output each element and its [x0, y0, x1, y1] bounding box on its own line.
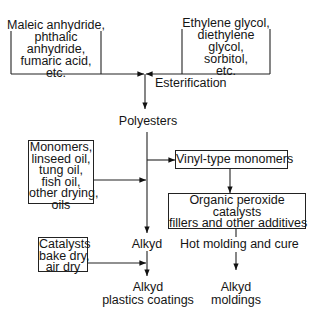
- acids-line: etc.: [6, 67, 106, 79]
- alkyd-label: Alkyd: [128, 238, 166, 250]
- hot-molding-label: Hot molding and cure: [180, 238, 294, 250]
- oils-line: oils: [29, 200, 93, 212]
- peroxide-box: Organic peroxide catalysts fillers and o…: [168, 193, 306, 229]
- glycols-node: Ethylene glycol, diethylene glycol, sorb…: [179, 17, 273, 77]
- peroxide-line: fillers and other additives: [169, 218, 305, 230]
- catalysts-line: air dry: [39, 262, 87, 274]
- moldings-line: moldings: [210, 294, 262, 307]
- polyesters-label: Polyesters: [117, 115, 179, 127]
- coatings-node: Alkyd plastics coatings: [100, 281, 196, 307]
- catalysts-box: Catalysts bake dry, air dry: [38, 237, 88, 272]
- coatings-line: plastics coatings: [100, 294, 196, 307]
- oils-box: Monomers, linseed oil, tung oil, fish oi…: [28, 140, 94, 204]
- vinyl-label: Vinyl-type monomers: [176, 152, 293, 166]
- vinyl-box: Vinyl-type monomers: [175, 150, 288, 169]
- acids-node: Maleic anhydride, phthalic anhydride, fu…: [6, 19, 106, 79]
- moldings-node: Alkyd moldings: [210, 281, 262, 307]
- esterification-label: Esterification: [155, 77, 227, 89]
